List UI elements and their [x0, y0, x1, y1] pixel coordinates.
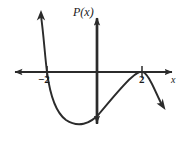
curve-path	[41, 16, 161, 124]
graph-canvas	[0, 0, 187, 142]
tick-label-positive-two: 2	[139, 74, 145, 85]
polynomial-curve	[37, 10, 166, 124]
x-axis-label: x	[171, 75, 175, 85]
tick-label-negative-two: −2	[38, 74, 50, 85]
function-label: P(x)	[73, 6, 94, 18]
polynomial-graph-figure: P(x) x −2 2	[0, 0, 187, 142]
curve-arrowhead-right	[157, 99, 166, 110]
